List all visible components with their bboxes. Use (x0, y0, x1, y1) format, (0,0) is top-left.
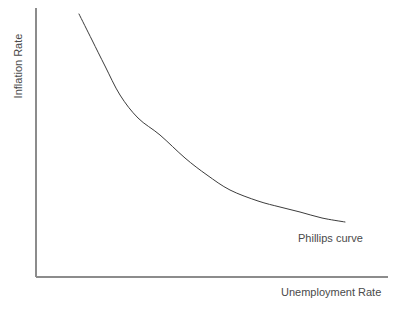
chart-canvas: Inflation Rate Unemployment Rate Phillip… (0, 0, 400, 310)
phillips-curve-line (79, 14, 345, 222)
phillips-curve-annotation: Phillips curve (298, 232, 363, 244)
y-axis-title: Inflation Rate (12, 34, 24, 99)
plot-area (0, 0, 400, 310)
x-axis-title: Unemployment Rate (281, 286, 381, 298)
